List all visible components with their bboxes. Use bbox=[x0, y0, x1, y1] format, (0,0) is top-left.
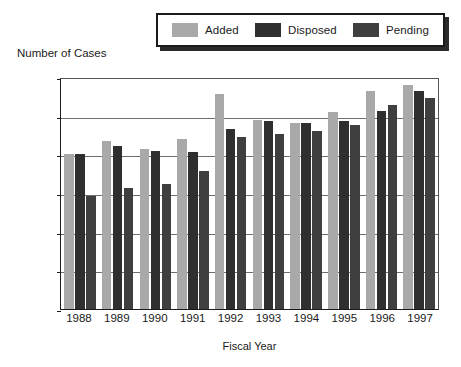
bar-pending-1995 bbox=[350, 125, 360, 309]
legend-swatch-added bbox=[172, 23, 198, 37]
legend-entry-pending: Pending bbox=[353, 23, 429, 37]
bar-added-1988 bbox=[64, 154, 74, 309]
bar-added-1993 bbox=[253, 120, 263, 309]
x-axis-tick-label-1993: 1993 bbox=[250, 312, 288, 324]
bar-disposed-1990 bbox=[151, 151, 161, 309]
bar-pending-1992 bbox=[237, 137, 247, 309]
bar-group-1989 bbox=[99, 79, 137, 309]
bar-disposed-1993 bbox=[264, 121, 274, 309]
legend-label-added: Added bbox=[205, 24, 239, 36]
bar-added-1994 bbox=[290, 123, 300, 309]
bar-group-1997 bbox=[400, 79, 438, 309]
bar-added-1991 bbox=[177, 139, 187, 309]
bar-group-1993 bbox=[250, 79, 288, 309]
bar-group-1988 bbox=[61, 79, 99, 309]
legend-swatch-pending bbox=[353, 23, 379, 37]
bar-pending-1991 bbox=[199, 171, 209, 309]
bar-pending-1988 bbox=[86, 196, 96, 309]
x-axis-title: Fiscal Year bbox=[60, 340, 439, 352]
bar-pending-1994 bbox=[312, 131, 322, 309]
bar-disposed-1996 bbox=[377, 111, 387, 309]
bar-added-1990 bbox=[140, 149, 150, 309]
legend-label-disposed: Disposed bbox=[288, 24, 337, 36]
legend-entry-disposed: Disposed bbox=[255, 23, 337, 37]
bar-group-1994 bbox=[287, 79, 325, 309]
chart-legend: Added Disposed Pending bbox=[156, 13, 445, 47]
bar-disposed-1988 bbox=[75, 154, 85, 309]
x-axis-tick-label-1988: 1988 bbox=[60, 312, 98, 324]
bar-added-1995 bbox=[328, 112, 338, 309]
x-axis-tick-label-1995: 1995 bbox=[325, 312, 363, 324]
bar-disposed-1991 bbox=[188, 152, 198, 309]
bar-group-1991 bbox=[174, 79, 212, 309]
bar-chart-figure: Added Disposed Pending Number of Cases 0… bbox=[0, 0, 461, 367]
x-axis-tick-label-1997: 1997 bbox=[401, 312, 439, 324]
bar-group-1995 bbox=[325, 79, 363, 309]
bar-disposed-1994 bbox=[301, 123, 311, 309]
x-axis-tick-label-1994: 1994 bbox=[287, 312, 325, 324]
bar-pending-1996 bbox=[388, 105, 398, 309]
x-axis-tick-label-1991: 1991 bbox=[174, 312, 212, 324]
bar-group-1996 bbox=[363, 79, 401, 309]
x-axis-tick-label-1996: 1996 bbox=[363, 312, 401, 324]
legend-label-pending: Pending bbox=[386, 24, 429, 36]
x-axis-tick-label-1990: 1990 bbox=[136, 312, 174, 324]
legend-entry-added: Added bbox=[172, 23, 239, 37]
plot-area bbox=[60, 78, 439, 310]
x-axis-tick-label-1992: 1992 bbox=[212, 312, 250, 324]
legend-swatch-disposed bbox=[255, 23, 281, 37]
bar-disposed-1995 bbox=[339, 121, 349, 309]
x-axis-tick-label-1989: 1989 bbox=[98, 312, 136, 324]
bar-added-1989 bbox=[102, 141, 112, 309]
bar-disposed-1992 bbox=[226, 129, 236, 309]
bar-pending-1997 bbox=[425, 98, 435, 309]
bar-added-1992 bbox=[215, 94, 225, 309]
bar-added-1997 bbox=[403, 85, 413, 309]
bar-added-1996 bbox=[366, 91, 376, 309]
bar-groups bbox=[61, 79, 438, 309]
bar-pending-1993 bbox=[275, 134, 285, 309]
bar-pending-1990 bbox=[162, 184, 172, 309]
bar-disposed-1989 bbox=[113, 146, 123, 309]
bar-pending-1989 bbox=[124, 188, 134, 309]
bar-group-1992 bbox=[212, 79, 250, 309]
y-axis-title: Number of Cases bbox=[17, 47, 106, 59]
bar-disposed-1997 bbox=[414, 91, 424, 309]
bar-group-1990 bbox=[136, 79, 174, 309]
x-axis-tick-labels: 1988198919901991199219931994199519961997 bbox=[60, 312, 439, 324]
